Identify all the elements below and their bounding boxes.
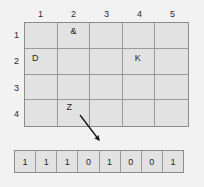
grid-cell-r3c5[interactable] xyxy=(155,75,188,101)
grid-cell-r1c2-value: & xyxy=(70,27,76,36)
column-header-2: 2 xyxy=(57,8,90,21)
bit-cell-5[interactable]: 0 xyxy=(121,151,142,172)
grid-cell-r1c3[interactable] xyxy=(90,23,123,49)
bit-cell-6[interactable]: 0 xyxy=(142,151,163,172)
grid-cell-r2c3[interactable] xyxy=(90,49,123,75)
row-header-2: 2 xyxy=(10,48,23,74)
row-header-1: 1 xyxy=(10,22,23,48)
column-header-4: 4 xyxy=(123,8,156,21)
grid-cell-r3c3[interactable] xyxy=(90,75,123,101)
diagram-root: 1 2 3 4 5 1 2 3 4 & D K Z xyxy=(0,0,204,187)
bit-cell-3[interactable]: 0 xyxy=(78,151,99,172)
grid-cell-r2c4-value: K xyxy=(135,54,141,63)
column-header-1: 1 xyxy=(24,8,57,21)
grid-cell-r1c4[interactable] xyxy=(123,23,156,49)
bit-cell-4[interactable]: 1 xyxy=(100,151,121,172)
grid-cell-r3c1[interactable] xyxy=(25,75,58,101)
grid-cell-r2c5[interactable] xyxy=(155,49,188,75)
grid-cell-r2c1-value: D xyxy=(32,54,39,63)
column-header-3: 3 xyxy=(90,8,123,21)
column-header-row: 1 2 3 4 5 xyxy=(24,8,189,21)
bit-strip: 1 1 1 0 1 0 0 1 xyxy=(14,150,184,173)
grid-cell-r2c1[interactable]: D xyxy=(25,49,58,75)
grid-cell-r2c2[interactable] xyxy=(58,49,91,75)
bit-cell-2[interactable]: 1 xyxy=(57,151,78,172)
arrow-icon xyxy=(70,108,112,148)
bit-cell-1[interactable]: 1 xyxy=(36,151,57,172)
grid-cell-r1c1[interactable] xyxy=(25,23,58,49)
grid-cell-r2c4[interactable]: K xyxy=(123,49,156,75)
grid-cell-r1c2[interactable]: & xyxy=(58,23,91,49)
grid-cell-r1c5[interactable] xyxy=(155,23,188,49)
row-header-4: 4 xyxy=(10,101,23,127)
row-header-column: 1 2 3 4 xyxy=(10,22,23,127)
column-header-5: 5 xyxy=(156,8,189,21)
grid-cell-r3c4[interactable] xyxy=(123,75,156,101)
bit-cell-0[interactable]: 1 xyxy=(15,151,36,172)
grid-cell-r3c2[interactable] xyxy=(58,75,91,101)
grid-cell-r4c4[interactable] xyxy=(123,100,156,126)
row-header-3: 3 xyxy=(10,75,23,101)
bit-cell-7[interactable]: 1 xyxy=(163,151,183,172)
grid-cell-r4c5[interactable] xyxy=(155,100,188,126)
grid-cell-r4c1[interactable] xyxy=(25,100,58,126)
